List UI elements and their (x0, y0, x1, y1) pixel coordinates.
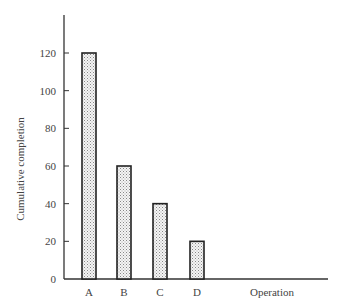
y-tick-label: 120 (40, 47, 57, 59)
y-axis-title: Cumulative completion (14, 117, 26, 221)
bar-chart: 020406080100120ABCDOperationCumulative c… (0, 0, 346, 307)
y-tick-label: 100 (40, 85, 57, 97)
x-category-label: C (156, 286, 163, 298)
bar-b (117, 166, 131, 279)
y-tick-label: 60 (45, 160, 57, 172)
bar-a (82, 53, 96, 279)
y-tick-label: 40 (45, 198, 57, 210)
bar-c (153, 204, 167, 279)
bar-d (190, 241, 204, 279)
y-tick-label: 80 (45, 122, 57, 134)
axes (64, 15, 328, 279)
y-tick-label: 20 (45, 235, 57, 247)
x-category-label: D (193, 286, 201, 298)
bars (82, 53, 204, 279)
x-axis-title: Operation (250, 286, 294, 298)
x-category-label: A (85, 286, 93, 298)
x-category-label: B (120, 286, 127, 298)
y-tick-label: 0 (51, 273, 57, 285)
